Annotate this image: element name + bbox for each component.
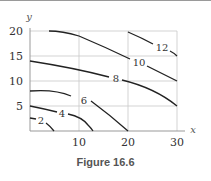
- y-axis-label: y: [25, 11, 32, 22]
- y-tick-5: 5: [16, 100, 23, 113]
- contour-4-a: [30, 106, 57, 112]
- contour-10-b: [147, 66, 177, 81]
- contour-label-8: 8: [113, 73, 119, 84]
- contour-label-12: 12: [156, 42, 169, 53]
- x-tick-10: 10: [72, 136, 86, 149]
- contour-label-6: 6: [81, 95, 87, 106]
- contour-12-a: [128, 32, 153, 44]
- contour-12-b: [170, 51, 177, 56]
- x-tick-30: 30: [170, 136, 184, 149]
- y-tick-15: 15: [9, 50, 23, 63]
- contour-6-b: [91, 101, 128, 131]
- x-axis-label: x: [190, 124, 196, 135]
- contour-4-b: [68, 114, 93, 131]
- contour-label-4: 4: [59, 108, 65, 119]
- contour-label-2: 2: [38, 115, 44, 126]
- contour-8-a: [30, 61, 109, 77]
- y-tick-20: 20: [9, 25, 23, 38]
- contour-8-b: [122, 80, 177, 106]
- contour-chart: 10 20 30 20 15 10 5 y x 2 4 6 8 10 12: [0, 0, 211, 181]
- figure-caption: Figure 16.6: [0, 156, 211, 168]
- contour-6-a: [30, 91, 71, 96]
- contour-2-a: [30, 118, 36, 119]
- contour-10-a: [49, 31, 130, 59]
- x-tick-20: 20: [121, 136, 135, 149]
- contour-label-10: 10: [133, 57, 146, 68]
- contour-2-b: [46, 123, 54, 131]
- y-tick-10: 10: [9, 75, 23, 88]
